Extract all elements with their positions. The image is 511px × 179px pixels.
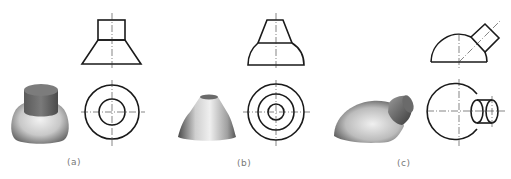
top-view-a xyxy=(81,80,145,146)
panel-label-b: (b) xyxy=(237,158,251,168)
figure-canvas xyxy=(0,0,511,179)
render-3d-b xyxy=(178,95,236,141)
front-view-b xyxy=(248,13,304,70)
front-view-c xyxy=(431,21,500,69)
render-3d-c xyxy=(334,94,416,143)
render-3d-a xyxy=(11,84,69,144)
panel-a xyxy=(11,13,145,146)
top-view-c xyxy=(427,79,505,146)
panel-label-c: (c) xyxy=(397,158,410,168)
panel-b xyxy=(178,13,310,146)
panel-c xyxy=(334,21,505,146)
panel-label-a: (a) xyxy=(67,157,81,167)
top-view-b xyxy=(243,80,310,146)
front-view-a xyxy=(82,13,141,69)
